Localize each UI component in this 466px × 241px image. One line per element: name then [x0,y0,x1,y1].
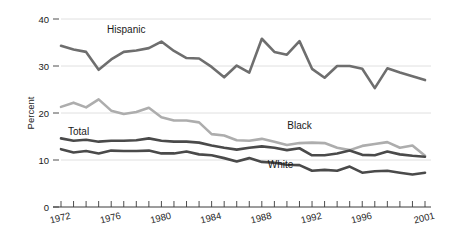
y-tick-label-40: 40 [38,14,49,25]
x-tick-label-1984: 1984 [199,210,222,226]
x-tick-label-1972: 1972 [49,210,72,226]
x-tick-label-1980: 1980 [149,210,172,226]
x-tick-label-1976: 1976 [99,210,122,226]
chart-canvas: 010203040 197219761980198419881992199620… [0,0,466,241]
x-tick-label-2001: 2001 [413,210,436,226]
x-axis: 19721976198019841988199219962001 [49,201,436,225]
y-tick-label-0: 0 [44,202,49,213]
series-label-hispanic: Hispanic [107,24,145,35]
y-tick-label-20: 20 [38,108,49,119]
gridlines [61,19,431,160]
x-tick-label-1992: 1992 [300,210,323,226]
y-tick-label-30: 30 [38,61,49,72]
series-line-hispanic [61,39,425,88]
x-tick-label-1988: 1988 [249,210,272,226]
y-axis-ticks: 010203040 [38,14,59,213]
series-line-black [61,99,425,155]
data-series-group [61,39,425,175]
series-label-black: Black [287,120,312,131]
y-axis-title: Percent [25,96,36,129]
series-label-total: Total [68,126,89,137]
line-chart: 010203040 197219761980198419881992199620… [0,0,466,241]
series-label-white: White [268,159,294,170]
x-tick-label-1996: 1996 [350,210,373,226]
series-line-white [61,149,425,174]
y-tick-label-10: 10 [38,155,49,166]
